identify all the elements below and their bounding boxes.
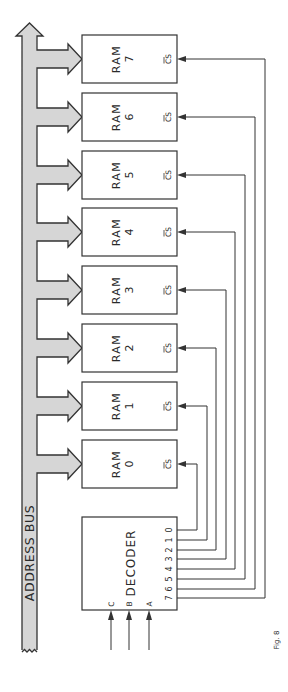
decoder-input-label: C <box>107 601 116 606</box>
decoder-output-label: 0 <box>165 527 174 532</box>
cs-wire-7 <box>177 59 265 598</box>
arrowhead-icon <box>177 172 186 178</box>
arrowhead-icon <box>177 403 186 409</box>
figure-caption: Fig. 8 <box>273 631 281 650</box>
decoder-output-label: 3 <box>165 556 174 561</box>
ram-index: 4 <box>123 229 136 236</box>
chip-select-label: CS <box>164 227 173 237</box>
chip-select-label: CS <box>164 54 173 64</box>
ram-chip-2: RAM2CS <box>82 324 177 372</box>
arrowhead-icon <box>126 610 132 620</box>
ram-index: 2 <box>123 345 136 352</box>
chip-select-wires <box>177 56 265 598</box>
ram-index: 3 <box>123 287 136 294</box>
arrowhead-icon <box>177 114 186 120</box>
cs-wire-0 <box>177 464 197 530</box>
ram-label: RAM <box>110 450 123 479</box>
decoder-output-label: 2 <box>165 547 174 552</box>
arrowhead-icon <box>177 287 186 293</box>
ram-chip-6: RAM6CS <box>82 93 177 141</box>
ram-chip-0: RAM0CS <box>82 440 177 488</box>
cs-wire-3 <box>177 290 226 559</box>
ram-index: 1 <box>123 403 136 410</box>
ram-chip-3: RAM3CS <box>82 266 177 314</box>
memory-decoder-diagram: RAM0CSRAM1CSRAM2CSRAM3CSRAM4CSRAM5CSRAM6… <box>0 0 288 692</box>
ram-index: 5 <box>123 172 136 179</box>
ram-index: 7 <box>123 56 136 63</box>
decoder-label: DECODER <box>124 530 138 597</box>
decoder: DECODER01234567CBA <box>82 517 177 650</box>
arrowhead-icon <box>177 56 186 62</box>
chip-select-label: CS <box>164 112 173 122</box>
cs-wire-1 <box>177 406 207 540</box>
ram-chip-5: RAM5CS <box>82 151 177 199</box>
ram-chips: RAM0CSRAM1CSRAM2CSRAM3CSRAM4CSRAM5CSRAM6… <box>82 35 177 488</box>
ram-label: RAM <box>110 218 123 247</box>
chip-select-label: CS <box>164 343 173 353</box>
ram-label: RAM <box>110 161 123 190</box>
chip-select-label: CS <box>164 401 173 411</box>
arrowhead-icon <box>108 610 114 620</box>
arrowhead-icon <box>177 229 186 235</box>
ram-chip-1: RAM1CS <box>82 382 177 430</box>
decoder-output-label: 1 <box>165 537 174 542</box>
decoder-output-label: 5 <box>165 576 174 581</box>
decoder-input-label: A <box>145 601 154 607</box>
ram-label: RAM <box>110 276 123 305</box>
ram-label: RAM <box>110 45 123 74</box>
decoder-output-label: 7 <box>165 595 174 600</box>
ram-chip-7: RAM7CS <box>82 35 177 83</box>
arrowhead-icon <box>177 345 186 351</box>
decoder-input-label: B <box>125 601 134 606</box>
arrowhead-icon <box>146 610 152 620</box>
ram-label: RAM <box>110 103 123 132</box>
decoder-output-label: 6 <box>165 586 174 591</box>
chip-select-label: CS <box>164 170 173 180</box>
chip-select-label: CS <box>164 459 173 469</box>
address-bus-label: ADDRESS BUS <box>22 505 37 602</box>
ram-label: RAM <box>110 392 123 421</box>
arrowhead-icon <box>177 461 186 467</box>
decoder-output-label: 4 <box>165 566 174 571</box>
ram-chip-4: RAM4CS <box>82 208 177 256</box>
ram-index: 6 <box>123 114 136 121</box>
ram-index: 0 <box>123 461 136 468</box>
chip-select-label: CS <box>164 285 173 295</box>
ram-label: RAM <box>110 334 123 363</box>
